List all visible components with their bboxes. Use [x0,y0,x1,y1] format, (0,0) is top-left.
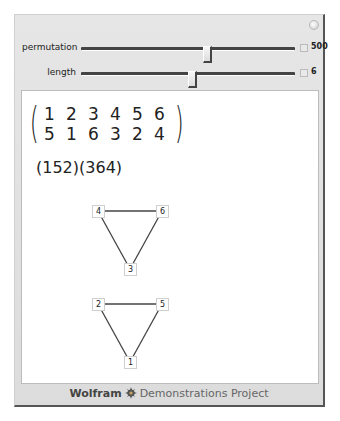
length-slider-thumb[interactable] [188,71,197,88]
graph-node: 3 [124,263,137,276]
animation-toggle-icon[interactable] [300,44,308,52]
permutation-control: permutation 500 [15,40,323,56]
graph-edge [98,304,130,362]
graph-edge [98,211,130,269]
output-area: ( 1 2 3 4 5 6 5 1 6 3 2 4 ) (152)(364) 4… [21,90,319,384]
plus-circle-icon[interactable] [309,20,319,30]
animation-toggle-icon[interactable] [300,69,308,77]
length-value: 6 [311,67,317,76]
length-control: length 6 [15,65,323,81]
graph-node: 4 [92,205,105,218]
permutation-slider[interactable] [81,47,295,51]
graph-edge [130,304,162,362]
length-slider[interactable] [81,72,295,76]
demonstration-panel: permutation 500 length 6 ( 1 2 3 4 5 6 5 [14,14,325,407]
graph-node: 1 [124,356,137,369]
length-label: length [22,67,76,77]
graph-node: 6 [156,205,169,218]
footer-project: Demonstrations Project [140,387,269,400]
graph-node: 5 [156,298,169,311]
graph-edge [130,211,162,269]
permutation-value: 500 [311,42,328,51]
cycle-graphs [22,91,318,383]
wolfram-spikey-icon [125,387,137,399]
footer-brand: Wolfram [69,387,121,400]
footer: Wolfram Demonstrations Project [15,383,323,405]
permutation-slider-thumb[interactable] [203,46,212,63]
graph-node: 2 [92,298,105,311]
permutation-label: permutation [22,42,76,52]
